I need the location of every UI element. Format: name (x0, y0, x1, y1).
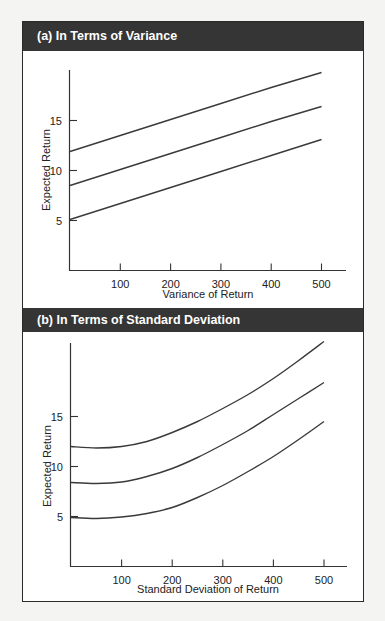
series-line-middle (71, 383, 324, 484)
panel-a-plot: 10020030040050051015 Variance of Return … (40, 70, 346, 300)
series-line-middle (70, 107, 322, 186)
x-tick-label: 100 (111, 278, 129, 290)
x-tick-label: 500 (312, 278, 330, 290)
series-line-lower (70, 140, 322, 220)
x-tick-label: 100 (112, 574, 130, 586)
x-axis-title: Variance of Return (163, 288, 254, 300)
y-tick-label: 5 (56, 215, 62, 227)
series-line-lower (71, 422, 324, 519)
y-axis-title: Expected Return (40, 129, 52, 211)
y-axis-title: Expected Return (41, 425, 53, 507)
y-tick-label: 15 (50, 115, 62, 127)
series-line-upper (70, 73, 322, 152)
panel-b-plot: 10020030040050051015 Standard Deviation … (41, 342, 347, 596)
x-tick-label: 400 (262, 278, 280, 290)
y-tick-label: 5 (57, 511, 63, 523)
y-tick-label: 15 (51, 411, 63, 423)
x-tick-label: 500 (315, 574, 333, 586)
series-line-upper (71, 342, 324, 449)
x-axis-title: Standard Deviation of Return (137, 583, 279, 595)
plots: 10020030040050051015 Variance of Return … (0, 0, 385, 621)
